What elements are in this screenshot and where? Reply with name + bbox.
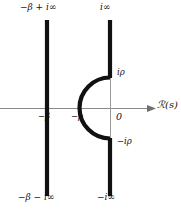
- label-top-left-endpoint: −β + i∞: [20, 3, 56, 12]
- label-beta-tick: −β: [38, 112, 50, 121]
- label-bottom-right-endpoint: −i∞: [97, 193, 115, 202]
- label-real-axis: ℛ(s): [157, 100, 178, 110]
- label-rho-tick: −ρ: [71, 112, 83, 121]
- real-axis-arrowhead: [147, 105, 156, 112]
- label-top-right-endpoint: i∞: [100, 3, 110, 12]
- label-bottom-left-endpoint: −β − i∞: [18, 193, 54, 202]
- contour-diagram-figure: −β + i∞ i∞ −β − i∞ −i∞ −β −ρ 0 iρ −iρ ℛ(…: [0, 0, 181, 211]
- label-lower-branch-point: −iρ: [117, 137, 132, 146]
- label-origin: 0: [116, 112, 122, 122]
- contour-diagram-canvas: [0, 0, 181, 211]
- label-upper-branch-point: iρ: [117, 68, 125, 77]
